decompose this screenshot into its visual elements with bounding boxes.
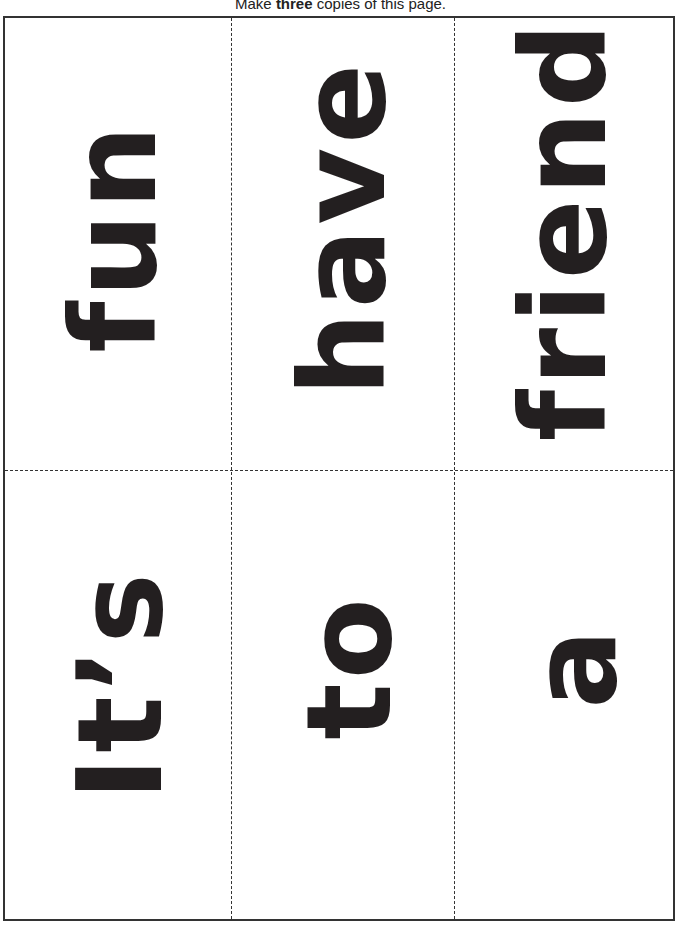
word-text: a xyxy=(515,625,633,709)
word-card-fun: fun xyxy=(5,18,231,470)
word-card-to: to xyxy=(231,470,454,923)
word-text: have xyxy=(284,60,402,397)
instruction-emphasis: three xyxy=(276,0,313,12)
instruction-suffix: copies of this page. xyxy=(313,0,446,12)
word-card-friend: friend xyxy=(454,18,677,470)
instruction-prefix: Make xyxy=(235,0,276,12)
word-card-have: have xyxy=(231,18,454,470)
word-text: to xyxy=(290,594,408,739)
word-card-its: It’s xyxy=(5,470,231,923)
word-card-sheet: fun have friend It’s to a xyxy=(3,16,675,921)
word-card-a: a xyxy=(454,470,677,923)
word-text: It’s xyxy=(61,569,179,800)
word-text: friend xyxy=(505,19,623,441)
word-text: fun xyxy=(55,121,173,352)
instruction-text: Make three copies of this page. xyxy=(0,0,681,13)
